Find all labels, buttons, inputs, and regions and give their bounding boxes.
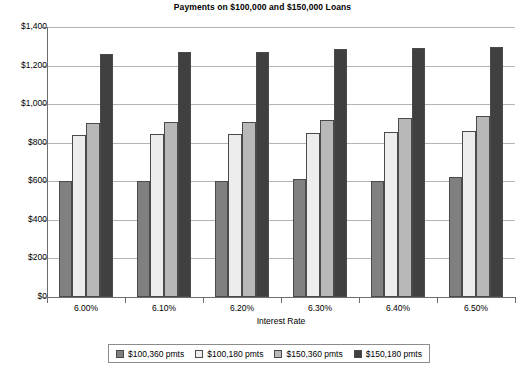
x-tick-label: 6.00% (47, 303, 125, 313)
y-tick-mark (42, 66, 47, 67)
y-tick-mark (42, 104, 47, 105)
bar (150, 134, 164, 297)
x-tick-label: 6.30% (281, 303, 359, 313)
legend-swatch (195, 350, 203, 358)
y-tick-mark (42, 27, 47, 28)
y-tick-label: $1,200 (5, 61, 47, 70)
legend-item: $100,180 pmts (195, 349, 263, 359)
legend-swatch (116, 350, 124, 358)
legend-label: $100,360 pmts (128, 349, 184, 359)
legend-swatch (354, 350, 362, 358)
x-axis-title: Interest Rate (47, 316, 515, 326)
y-tick-mark (42, 258, 47, 259)
y-tick-mark (42, 181, 47, 182)
gridline (47, 104, 515, 105)
bar (86, 123, 100, 297)
bar (293, 179, 307, 297)
y-tick: $1,200 (0, 61, 47, 71)
bar (334, 49, 348, 297)
y-tick-label: $1,000 (5, 99, 47, 108)
bar (256, 52, 270, 297)
y-tick-mark (42, 220, 47, 221)
y-tick-label: $1,400 (5, 22, 47, 31)
bar (228, 134, 242, 297)
y-tick-label: $200 (5, 253, 47, 262)
bar (462, 131, 476, 297)
gridline (47, 66, 515, 67)
plot-background (47, 27, 515, 297)
y-tick-mark (42, 143, 47, 144)
bar (384, 132, 398, 297)
bar (398, 118, 412, 297)
gridline (47, 27, 515, 28)
y-tick-label: $0 (5, 292, 47, 301)
bar (137, 181, 151, 297)
chart-legend: $100,360 pmts$100,180 pmts$150,360 pmts$… (108, 344, 430, 363)
gridline (47, 220, 515, 221)
y-tick-label: $800 (5, 138, 47, 147)
bar (164, 122, 178, 297)
bar (72, 135, 86, 297)
chart-title: Payments on $100,000 and $150,000 Loans (0, 2, 525, 12)
bar (490, 47, 504, 297)
legend-item: $100,360 pmts (116, 349, 184, 359)
y-tick: $400 (0, 215, 47, 225)
legend-label: $150,180 pmts (366, 349, 422, 359)
bar (59, 181, 73, 297)
y-tick: $0 (0, 292, 47, 302)
legend-label: $100,180 pmts (207, 349, 263, 359)
x-tick-mark (515, 298, 516, 303)
bar (476, 116, 490, 297)
bar (371, 181, 385, 297)
y-tick: $600 (0, 176, 47, 186)
y-axis-line (47, 27, 48, 298)
bar-chart: Payments on $100,000 and $150,000 Loans … (0, 0, 525, 368)
y-tick: $800 (0, 138, 47, 148)
gridline (47, 258, 515, 259)
bar (412, 48, 426, 297)
y-tick: $200 (0, 253, 47, 263)
y-tick-label: $400 (5, 215, 47, 224)
y-tick: $1,000 (0, 99, 47, 109)
legend-item: $150,180 pmts (354, 349, 422, 359)
gridline (47, 143, 515, 144)
bar (449, 177, 463, 297)
y-tick: $1,400 (0, 22, 47, 32)
x-tick-label: 6.20% (203, 303, 281, 313)
bar (242, 122, 256, 297)
bar (306, 133, 320, 297)
y-tick-label: $600 (5, 176, 47, 185)
bar (178, 52, 192, 297)
legend-swatch (274, 350, 282, 358)
legend-item: $150,360 pmts (274, 349, 342, 359)
x-tick-label: 6.40% (359, 303, 437, 313)
legend-label: $150,360 pmts (286, 349, 342, 359)
plot-area (47, 27, 515, 297)
x-tick-label: 6.50% (437, 303, 515, 313)
bar (320, 120, 334, 297)
bar (215, 181, 229, 297)
x-tick-label: 6.10% (125, 303, 203, 313)
bar (100, 54, 114, 297)
gridline (47, 181, 515, 182)
